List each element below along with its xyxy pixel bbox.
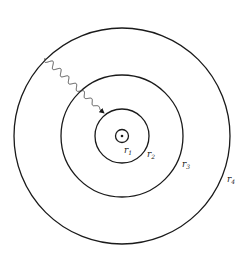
nucleus-dot bbox=[121, 135, 124, 138]
label-r4: r4 bbox=[227, 174, 235, 185]
label-r1: r1 bbox=[124, 145, 132, 156]
wavy-photon-arrow bbox=[44, 58, 104, 113]
label-r3: r3 bbox=[182, 159, 190, 170]
label-r2: r2 bbox=[147, 149, 155, 160]
concentric-circles-diagram: r1 r2 r3 r4 bbox=[0, 0, 241, 255]
